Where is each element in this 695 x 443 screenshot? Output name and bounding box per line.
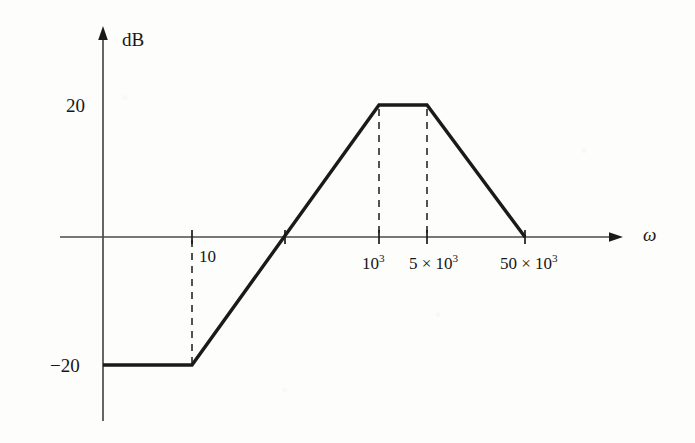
y-axis (98, 26, 108, 421)
x-tick-label-1e3-exponent: 3 (379, 252, 385, 264)
x-tick-label-1e3: 103 (362, 255, 385, 272)
y-axis-label: dB (122, 30, 144, 49)
x-tick-label-5e3-exponent: 3 (453, 252, 459, 264)
plot-canvas (0, 0, 695, 443)
x-tick-label-10: 10 (199, 248, 216, 265)
magnitude-curve (103, 105, 525, 365)
x-tick-label-50e3-exponent: 3 (552, 252, 558, 264)
x-tick-label-1e3-mantissa: 10 (362, 254, 379, 273)
x-axis-label: ω (643, 225, 656, 244)
y-tick-label-20: 20 (66, 96, 85, 115)
y-tick-label-minus-20: −20 (50, 356, 80, 375)
x-tick-label-5e3-mantissa: 5 × 10 (409, 254, 453, 273)
bode-magnitude-plot: dB 20 −20 10 103 5 × 103 50 × 103 ω (0, 0, 695, 443)
x-axis (60, 232, 623, 242)
x-tick-label-50e3-mantissa: 50 × 10 (500, 254, 552, 273)
y-axis-arrowhead (98, 26, 108, 40)
x-axis-arrowhead (609, 232, 623, 242)
x-tick-label-50e3: 50 × 103 (500, 255, 558, 272)
x-tick-label-5e3: 5 × 103 (409, 255, 458, 272)
